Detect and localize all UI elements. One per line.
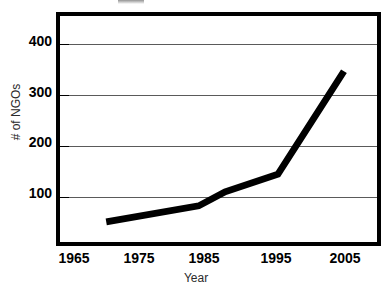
x-tick-label-1995: 1995 (241, 250, 311, 266)
x-tick-label-1985: 1985 (169, 250, 239, 266)
x-tick-label-2005: 2005 (310, 250, 380, 266)
data-series-ngos (60, 16, 377, 242)
x-tick-label-1975: 1975 (104, 250, 174, 266)
y-tick-label-100: 100 (14, 186, 52, 200)
cropped-title-artifact (118, 0, 144, 4)
y-tick-label-300: 300 (14, 85, 52, 99)
x-axis-tick-labels: 1965 1975 1985 1995 2005 (0, 250, 392, 270)
x-tick-label-1965: 1965 (39, 250, 109, 266)
plot-area (56, 12, 381, 246)
x-axis-title: Year (0, 271, 392, 285)
plot-inner (60, 16, 377, 242)
y-tick-label-200: 200 (14, 135, 52, 149)
y-axis-tick-labels: 400 300 200 100 (14, 0, 52, 289)
y-tick-label-400: 400 (14, 34, 52, 48)
chart-screenshot: # of NGOs 400 300 200 100 1965 1975 (0, 0, 392, 289)
